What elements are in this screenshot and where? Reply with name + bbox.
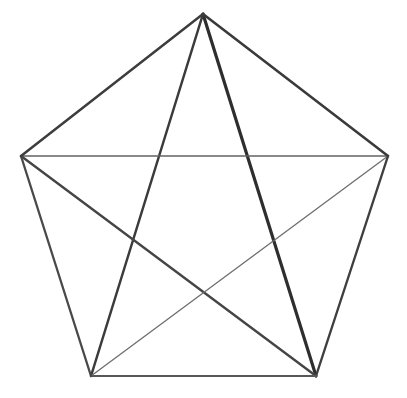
edge-apex-right xyxy=(203,14,388,156)
pentagon-diagram xyxy=(0,0,407,398)
edge-left-apex xyxy=(21,14,203,156)
diag-right-bottomleft xyxy=(91,156,388,376)
edge-right-bottomright xyxy=(316,156,388,376)
diag-apex-bottomleft xyxy=(91,14,203,376)
diag-left-bottomright xyxy=(21,156,316,376)
edge-bottomleft-left xyxy=(21,156,91,376)
pentagon-figure-canvas xyxy=(0,0,407,398)
diag-apex-bottomright xyxy=(203,14,316,376)
pentagon-outline-group xyxy=(21,14,388,376)
